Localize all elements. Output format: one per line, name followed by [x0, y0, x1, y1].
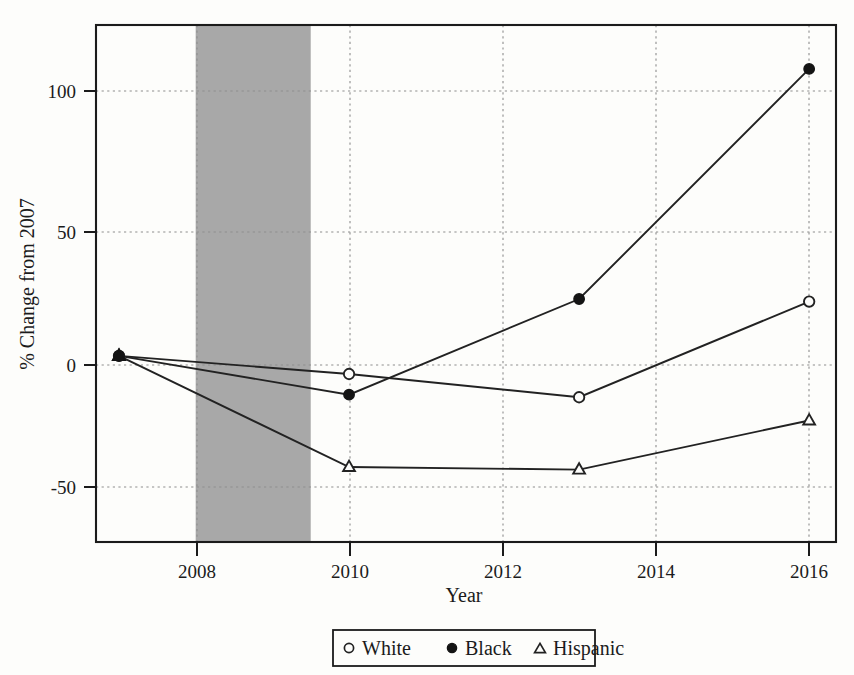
- chart-figure: 100 50 0 -50 2008 2010 2012 2014 2016 Ye…: [0, 0, 854, 675]
- xtick-label-2010: 2010: [331, 561, 369, 582]
- y-axis-title: % Change from 2007: [16, 198, 39, 370]
- legend-label-black: Black: [465, 637, 512, 659]
- chart-legend: White Black Hispanic: [333, 630, 624, 666]
- recession-shading: [196, 25, 311, 542]
- ytick-label-0: 0: [67, 355, 77, 376]
- datapoint-black-2013: [574, 294, 584, 304]
- datapoint-white-2016: [804, 296, 814, 306]
- ytick-label-50: 50: [57, 222, 76, 243]
- legend-label-hispanic: Hispanic: [553, 637, 624, 660]
- ytick-label-neg50: -50: [51, 477, 76, 498]
- xtick-label-2012: 2012: [484, 561, 522, 582]
- datapoint-white-2013: [574, 392, 584, 402]
- xtick-label-2016: 2016: [790, 561, 828, 582]
- xtick-label-2014: 2014: [637, 561, 676, 582]
- x-axis-title: Year: [446, 584, 483, 606]
- legend-label-white: White: [362, 637, 411, 659]
- datapoint-black-2010: [344, 389, 354, 399]
- figure-background: [0, 0, 854, 675]
- line-chart: 100 50 0 -50 2008 2010 2012 2014 2016 Ye…: [0, 0, 854, 675]
- xtick-label-2008: 2008: [178, 561, 216, 582]
- datapoint-black-2016: [804, 64, 814, 74]
- datapoint-white-2010: [344, 369, 354, 379]
- ytick-label-100: 100: [48, 81, 77, 102]
- legend-marker-black-filled-circle-icon: [447, 643, 456, 652]
